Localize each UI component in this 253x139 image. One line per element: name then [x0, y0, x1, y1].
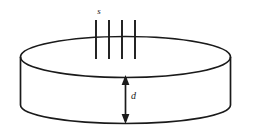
thickness-label: d: [131, 90, 137, 101]
thickness-dimension: [122, 75, 130, 124]
spacing-label: s: [97, 6, 101, 16]
figure-canvas: s d: [0, 0, 253, 139]
top-face-ellipse: [21, 37, 231, 78]
thickness-arrow-head-up: [122, 75, 130, 85]
spacing-hatch-group: [96, 20, 135, 59]
thickness-arrow-head-down: [122, 114, 130, 124]
cylinder-diagram: s d: [0, 0, 253, 139]
